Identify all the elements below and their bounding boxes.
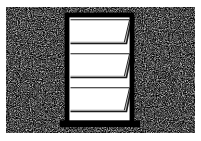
louver-3-face bbox=[71, 88, 130, 110]
louvered-window bbox=[60, 15, 140, 127]
louver-1-face bbox=[71, 20, 130, 42]
louver-slat-1 bbox=[71, 20, 132, 48]
illustration-canvas: Louvered window in stippled wall Stipple… bbox=[0, 0, 201, 141]
louver-2-face bbox=[71, 54, 130, 76]
louvered-window-illustration bbox=[0, 0, 201, 141]
louver-2-gap bbox=[71, 79, 130, 81]
louver-1-gap bbox=[71, 45, 130, 47]
window-sill bbox=[60, 121, 140, 128]
louver-slat-3 bbox=[71, 88, 132, 120]
louver-3-gap bbox=[71, 113, 130, 120]
louver-slat-2 bbox=[71, 54, 132, 82]
